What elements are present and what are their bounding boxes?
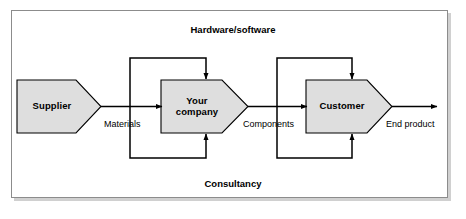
band-label-consultancy: Consultancy [0,178,466,189]
diagram-page: Supplier Your company Customer Materials… [0,0,466,219]
flow-label-materials: Materials [104,119,141,129]
node-label-customer: Customer [306,100,378,111]
band-label-hardware-software: Hardware/software [0,24,466,35]
node-label-supplier: Supplier [17,100,87,111]
flow-label-end-product: End product [386,119,435,129]
node-label-your-company: Your company [161,95,233,117]
flow-label-components: Components [243,119,294,129]
